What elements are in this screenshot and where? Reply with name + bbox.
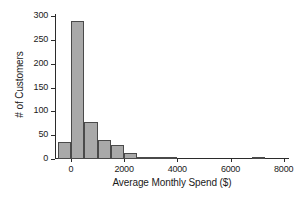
x-tick-label: 4000 [168,164,187,175]
histogram-bar [58,142,71,159]
y-tick-label: 50 [38,129,48,140]
histogram-bar [111,145,124,159]
histogram-bars [55,14,289,159]
y-tick-label: 250 [34,34,48,45]
histogram-bar [252,157,265,159]
x-tick-label: 0 [69,164,74,175]
histogram-bar [124,153,137,159]
histogram-bar [137,157,150,159]
histogram-bar [71,21,84,159]
x-axis-title: Average Monthly Spend ($) [55,176,289,189]
y-tick-label: 0 [43,153,48,164]
histogram-bar [84,122,97,159]
x-tick-label: 2000 [115,164,134,175]
x-tick-label: 6000 [221,164,240,175]
histogram-bar [164,157,177,159]
y-tick-mark [51,159,55,160]
y-tick-label: 200 [34,58,48,69]
y-axis-title: # of Customers [13,25,26,145]
histogram-bar [98,140,111,159]
y-tick-label: 300 [34,10,48,21]
y-tick-label: 100 [34,105,48,116]
histogram-chart: 050100150200250300 02000400060008000 Ave… [0,0,300,206]
x-tick-label: 8000 [274,164,293,175]
y-tick-label: 150 [34,82,48,93]
histogram-bar [151,157,164,159]
